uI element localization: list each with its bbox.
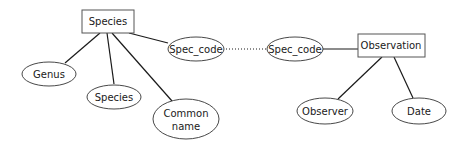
attribute-date: Date <box>392 98 446 124</box>
attribute-common-name: Common name <box>153 99 219 139</box>
attribute-spec-code-observation-label: Spec_code <box>268 44 321 56</box>
connector-species-species <box>107 33 114 84</box>
entity-observation-label: Observation <box>361 40 422 51</box>
connector-observation-observer <box>338 57 382 99</box>
attribute-common-name-line1: Common <box>163 108 208 119</box>
attribute-species-label: Species <box>95 92 134 103</box>
attribute-spec-code-observation: Spec_code <box>267 37 323 61</box>
entity-observation: Observation <box>358 34 425 57</box>
attribute-observer: Observer <box>297 98 353 124</box>
connector-observation-date <box>394 57 413 98</box>
connector-species-genus <box>65 33 100 63</box>
attribute-date-label: Date <box>407 106 431 117</box>
attribute-common-name-line2: name <box>172 121 200 132</box>
entity-species-label: Species <box>89 16 128 27</box>
er-diagram: Species Observation Genus Species Common… <box>0 0 468 142</box>
attribute-species: Species <box>87 85 141 109</box>
attribute-spec-code-species-label: Spec_code <box>169 44 222 56</box>
entity-species: Species <box>82 10 134 33</box>
attribute-observer-label: Observer <box>302 106 349 117</box>
attribute-genus: Genus <box>22 62 76 86</box>
attribute-spec-code-species: Spec_code <box>168 37 224 61</box>
connector-species-spec-code <box>129 33 168 43</box>
attribute-genus-label: Genus <box>33 69 65 80</box>
